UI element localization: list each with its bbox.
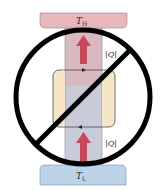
heat-label-lower: |Q| (105, 139, 117, 148)
diagram-canvas: TH TL |Q| |Q| (0, 0, 160, 191)
heat-label-upper: |Q| (105, 50, 117, 59)
hot-reservoir-subscript: H (82, 20, 87, 27)
cold-reservoir-subscript: L (82, 175, 86, 182)
